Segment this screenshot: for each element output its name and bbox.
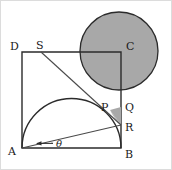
point-label-R: R xyxy=(125,121,134,134)
point-label-P: P xyxy=(101,101,109,114)
point-label-D: D xyxy=(10,40,19,53)
point-label-C: C xyxy=(126,40,134,53)
point-label-B: B xyxy=(125,148,133,161)
geometry-figure: D S C P Q R A B θ xyxy=(0,0,172,170)
point-label-S: S xyxy=(36,39,44,52)
point-label-A: A xyxy=(7,145,17,158)
geometry-diagram-svg: D S C P Q R A B θ xyxy=(0,0,172,170)
point-label-Q: Q xyxy=(125,101,134,114)
angle-label-theta: θ xyxy=(56,138,62,149)
shaded-circle-at-C xyxy=(80,12,158,90)
